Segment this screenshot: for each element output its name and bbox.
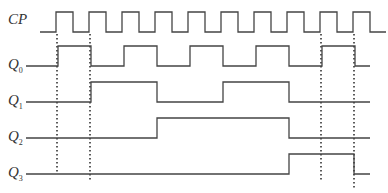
waveforms (26, 12, 386, 174)
label-text: Q (8, 164, 19, 180)
label-subscript: 1 (19, 102, 23, 111)
label-text: CP (8, 11, 27, 27)
label-text: Q (8, 128, 19, 144)
waveform-q3 (26, 154, 370, 174)
label-subscript: 0 (19, 66, 23, 75)
timing-diagram (0, 0, 388, 193)
label-text: Q (8, 56, 19, 72)
waveform-q1 (26, 82, 370, 102)
waveform-q2 (26, 118, 370, 138)
label-q3: Q3 (8, 165, 23, 183)
label-q2: Q2 (8, 129, 23, 147)
dotted-guide-lines (57, 34, 354, 190)
label-q0: Q0 (8, 57, 23, 75)
label-q1: Q1 (8, 93, 23, 111)
label-subscript: 3 (19, 174, 23, 183)
label-text: Q (8, 92, 19, 108)
waveform-q0 (26, 46, 370, 66)
waveform-cp (40, 12, 386, 32)
label-subscript: 2 (19, 138, 23, 147)
label-cp: CP (8, 12, 27, 27)
